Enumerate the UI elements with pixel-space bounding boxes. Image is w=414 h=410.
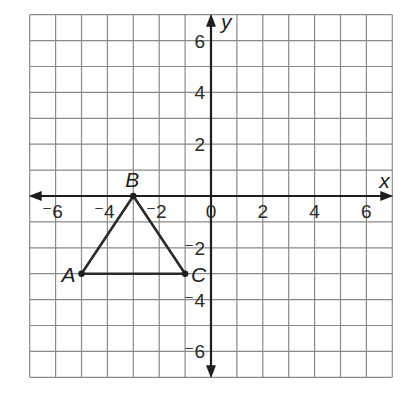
x-tick-label: 6 [361,201,372,222]
y-axis-label: y [219,10,233,33]
point-c [182,271,188,277]
y-tick-label: 4 [194,82,205,103]
x-axis-right-arrow-icon [380,191,393,201]
point-label-b: B [125,168,139,191]
point-label-c: C [191,263,207,286]
y-axis-down-arrow-icon [206,365,216,378]
x-tick-label: 0 [206,201,217,222]
y-tick-label: ⁻2 [184,238,205,259]
y-tick-label: ⁻6 [184,341,205,362]
x-axis-left-arrow-icon [29,191,42,201]
y-tick-label: 6 [194,31,205,52]
point-label-a: A [60,263,76,286]
y-tick-label: ⁻4 [184,290,205,311]
coordinate-plane: xy ⁻6⁻4⁻20246642⁻2⁻4⁻6 ABC [0,0,414,410]
x-tick-label: 4 [309,201,320,222]
x-axis-label: x [378,169,391,192]
y-axis-up-arrow-icon [206,14,216,27]
point-a [78,271,84,277]
y-tick-label: 2 [194,134,205,155]
point-b [130,193,136,199]
x-tick-label: ⁻4 [94,201,115,222]
x-tick-label: ⁻6 [42,201,63,222]
axes: xy [29,10,394,379]
x-tick-label: 2 [258,201,269,222]
